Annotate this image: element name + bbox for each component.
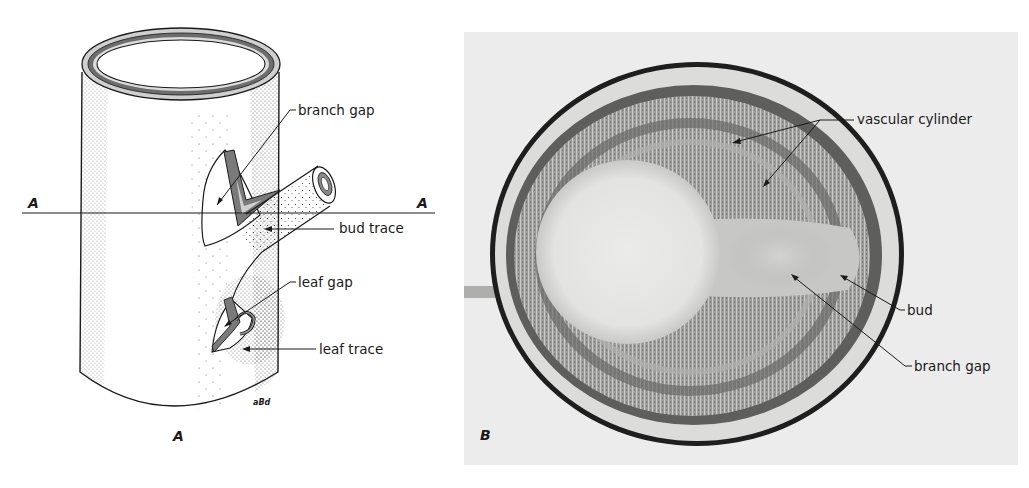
shading-left	[80, 72, 108, 388]
cross-section-photo: vascular cylinder bud branch gap B	[464, 32, 1018, 465]
section-label-right: A	[416, 195, 428, 211]
artist-signature: aBd	[253, 398, 270, 407]
label-bud-trace: bud trace	[339, 220, 404, 236]
pith	[536, 160, 720, 344]
label-leaf-gap: leaf gap	[298, 274, 353, 290]
panel-a-stem-diagram: A A branch gap bud trace leaf gap leaf t…	[0, 0, 460, 488]
label-bud: bud	[907, 302, 933, 318]
panel-b-micrograph: vascular cylinder bud branch gap B	[464, 32, 1018, 465]
panel-letter-a: A	[172, 428, 184, 444]
section-label-left: A	[27, 195, 39, 211]
botanical-figure: A A branch gap bud trace leaf gap leaf t…	[0, 0, 1029, 488]
panel-letter-b: B	[480, 427, 491, 443]
stem-drawing: A A branch gap bud trace leaf gap leaf t…	[0, 0, 460, 488]
label-vascular-cylinder: vascular cylinder	[857, 111, 972, 127]
label-leaf-trace: leaf trace	[319, 341, 383, 357]
pith-opening	[97, 40, 265, 88]
label-branch-gap-b: branch gap	[914, 358, 991, 374]
label-branch-gap: branch gap	[298, 102, 375, 118]
